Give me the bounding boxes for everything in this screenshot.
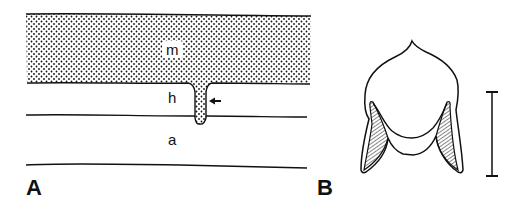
panel-b-drawing (361, 41, 498, 176)
panel-label-b: B (317, 175, 333, 201)
figure-canvas (0, 0, 520, 205)
label-a: a (168, 131, 176, 148)
arrow-icon (209, 98, 221, 105)
layer-a-bottom-line (26, 164, 307, 168)
panel-label-a: A (26, 175, 42, 201)
label-m: m (162, 41, 183, 58)
layer-h-bottom-line (26, 115, 307, 117)
label-h: h (168, 89, 176, 106)
layer-m-stippled (26, 14, 311, 124)
scale-bar (486, 92, 498, 176)
